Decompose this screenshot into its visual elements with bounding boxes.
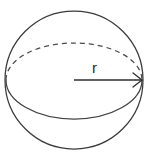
equator-back-dashed-arc bbox=[6, 43, 142, 80]
sphere-diagram: r bbox=[0, 0, 150, 161]
equator-front-solid-arc bbox=[6, 80, 142, 119]
radius-label: r bbox=[92, 59, 97, 76]
sphere-figure-svg: r bbox=[0, 0, 150, 161]
